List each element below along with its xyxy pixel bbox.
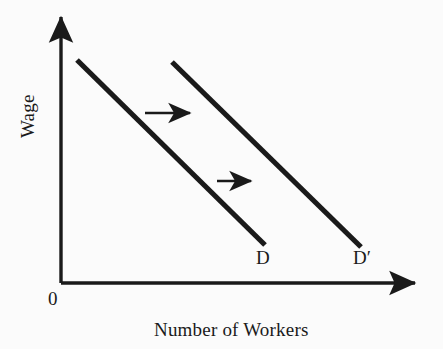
labor-demand-shift-diagram: Wage Number of Workers 0 D D′ — [0, 0, 443, 349]
diagram-canvas — [0, 0, 443, 349]
x-axis-label: Number of Workers — [154, 320, 309, 339]
origin-label: 0 — [48, 289, 58, 308]
curve-label-d-prime: D′ — [353, 248, 371, 267]
y-axis-label: Wage — [18, 94, 37, 138]
original-demand-curve — [77, 60, 265, 245]
shifted-demand-curve — [172, 62, 361, 247]
curve-label-d: D — [256, 248, 270, 267]
